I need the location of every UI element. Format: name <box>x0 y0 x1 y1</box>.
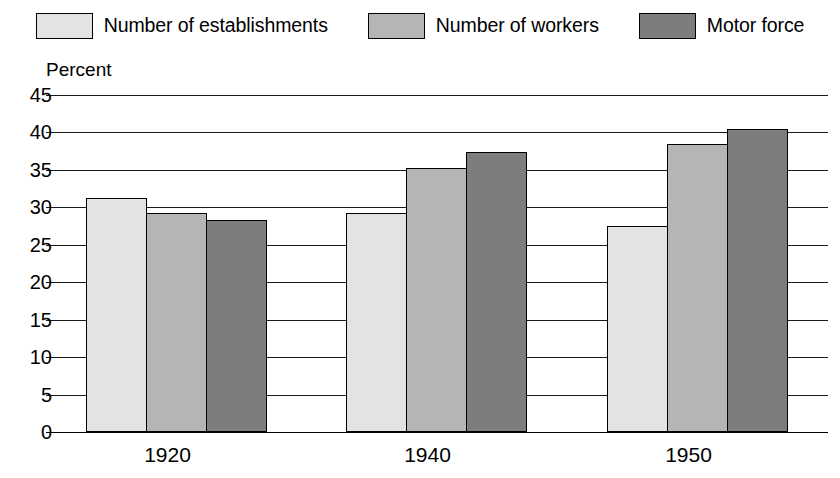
bar-1920-series-2 <box>206 220 267 432</box>
legend-swatch-light-icon <box>36 13 93 39</box>
bar-1940-series-1 <box>406 168 467 432</box>
legend-label-workers: Number of workers <box>436 16 599 36</box>
bar-1920-series-0 <box>86 198 147 432</box>
legend-item-workers: Number of workers <box>368 13 599 39</box>
x-tick-label-1950: 1950 <box>597 444 780 465</box>
x-tick-label-1920: 1920 <box>76 444 259 465</box>
legend-item-establishments: Number of establishments <box>36 13 328 39</box>
bar-1940-series-0 <box>346 213 407 432</box>
bar-series-container <box>0 52 840 478</box>
bar-1950-series-2 <box>727 129 788 432</box>
bar-1950-series-1 <box>667 144 728 432</box>
legend-swatch-dark-icon <box>639 13 696 39</box>
chart-plot-area: Percent 454035302520151050 192019401950 <box>0 52 840 478</box>
legend-label-motor-force: Motor force <box>707 16 805 36</box>
bar-1920-series-1 <box>146 213 207 432</box>
legend-swatch-medium-icon <box>368 13 425 39</box>
x-axis-baseline <box>46 432 828 433</box>
legend-item-motor-force: Motor force <box>639 13 805 39</box>
legend-label-establishments: Number of establishments <box>104 16 328 36</box>
x-tick-label-1940: 1940 <box>336 444 519 465</box>
chart-legend: Number of establishments Number of worke… <box>0 0 840 52</box>
bar-1940-series-2 <box>466 152 527 432</box>
bar-1950-series-0 <box>607 226 668 432</box>
